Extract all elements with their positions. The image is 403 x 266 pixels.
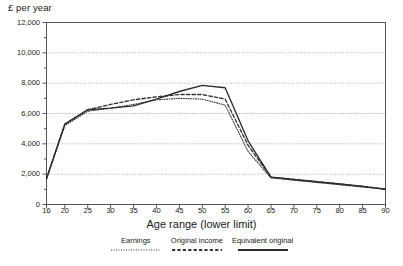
x-tick-label: 55 [214,206,236,215]
x-tick-label: 90 [375,206,397,215]
x-tick-label: 80 [329,206,351,215]
legend-entry: Equivalent original [232,236,293,252]
legend-entry: Earnings [110,236,162,252]
legend-label: Original income [171,236,223,246]
x-tick-label: 65 [260,206,282,215]
y-tick-label: 6,000 [2,109,40,118]
y-tick-label: 4,000 [2,139,40,148]
x-tick-label: 20 [54,206,76,215]
x-tick-label: 50 [191,206,213,215]
x-tick-label: 45 [168,206,190,215]
axis-ticks [43,23,386,209]
chart-legend: EarningsOriginal incomeEquivalent origin… [0,236,403,252]
y-tick-label: 12,000 [2,18,40,27]
legend-swatch-dotted-icon [110,248,162,252]
x-tick-label: 70 [283,206,305,215]
x-tick-label: 40 [145,206,167,215]
x-tick-label: 30 [100,206,122,215]
y-tick-label: 10,000 [2,48,40,57]
y-tick-label: 0 [2,200,40,209]
x-tick-label: 85 [352,206,374,215]
data-series [47,85,386,189]
x-tick-label: 25 [77,206,99,215]
legend-entry: Original income [171,236,223,252]
x-tick-label: 75 [306,206,328,215]
y-tick-label: 8,000 [2,78,40,87]
legend-swatch-solid-icon [237,248,289,252]
gridlines [47,53,386,174]
x-tick-label: 60 [237,206,259,215]
x-axis-title: Age range (lower limit) [0,218,403,230]
legend-label: Equivalent original [232,236,293,246]
x-tick-label: 35 [123,206,145,215]
y-tick-label: 2,000 [2,169,40,178]
series-line [47,85,386,189]
legend-label: Earnings [121,236,151,246]
legend-swatch-dashed-icon [171,248,223,252]
chart-figure: £ per year 12,00010,0008,0006,0004,0002,… [0,0,403,266]
